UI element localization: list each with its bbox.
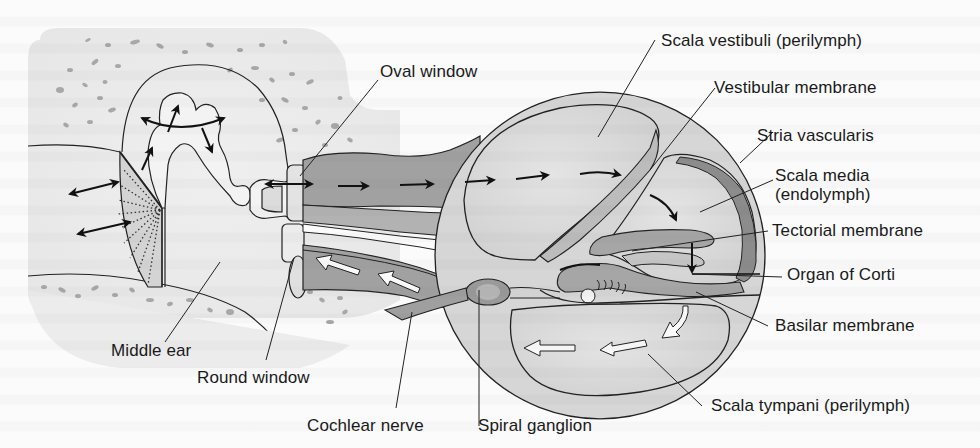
label-vestibular-membrane: Vestibular membrane <box>714 78 877 97</box>
label-middle-ear: Middle ear <box>111 341 191 360</box>
label-scala-media: Scala media <box>775 166 870 185</box>
label-scala-tympani: Scala tympani (perilymph) <box>711 396 910 415</box>
cochlea-diagram: Oval window Scala vestibuli (perilymph) … <box>0 0 980 448</box>
label-stria-vascularis: Stria vascularis <box>757 126 874 145</box>
label-basilar-membrane: Basilar membrane <box>775 316 915 335</box>
label-scala-vestibuli: Scala vestibuli (perilymph) <box>661 31 862 50</box>
label-organ-of-corti: Organ of Corti <box>787 265 895 284</box>
label-round-window: Round window <box>197 368 310 387</box>
label-oval-window: Oval window <box>380 62 477 81</box>
cochlea-cross-section <box>435 92 765 419</box>
label-spiral-ganglion: Spiral ganglion <box>478 416 592 435</box>
label-cochlear-nerve: Cochlear nerve <box>307 416 424 435</box>
label-scala-media-endolymph: (endolymph) <box>775 185 871 204</box>
label-tectorial-membrane: Tectorial membrane <box>772 221 923 240</box>
